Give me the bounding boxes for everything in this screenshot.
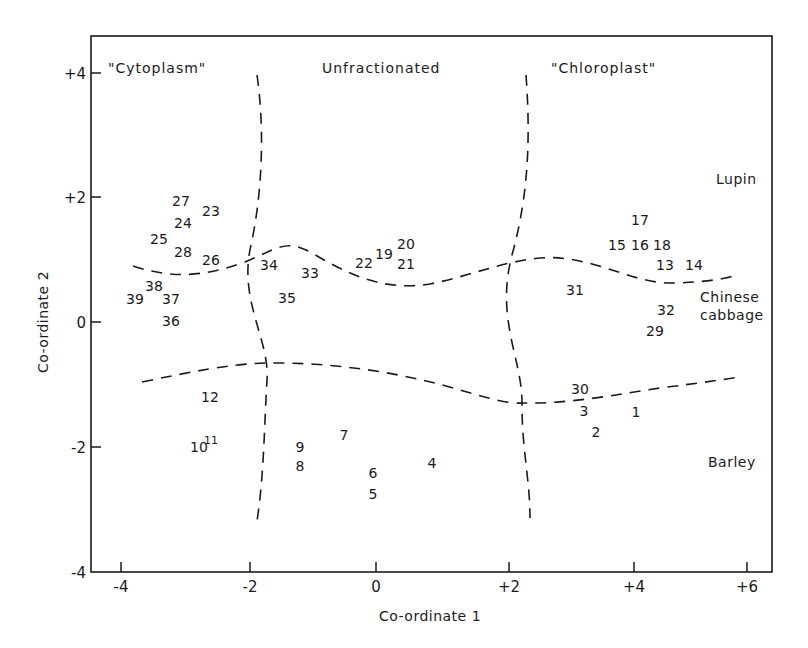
data-point: 9 (296, 439, 305, 455)
data-point: 5 (369, 486, 378, 502)
x-tick-label: -4 (114, 578, 129, 596)
chinese-cabbage-barley-divider (142, 363, 740, 403)
region-label-chloroplast: "Chloroplast" (551, 60, 656, 76)
data-point: 4 (428, 455, 437, 471)
x-tick-label: -2 (243, 578, 258, 596)
x-tick-label: +4 (623, 578, 645, 596)
data-point: 35 (278, 290, 296, 306)
species-label-lupin: Lupin (716, 171, 757, 187)
data-point: 13 (656, 257, 674, 273)
data-point: 20 (397, 236, 415, 252)
scatter-chart: +4 +2 0 -2 -4 -4 -2 0 +2 +4 +6 Co-ordina… (0, 0, 808, 648)
data-point: 39 (126, 291, 144, 307)
data-point: 34 (260, 257, 278, 273)
data-point: 1 (632, 404, 641, 420)
boundaries (133, 75, 740, 527)
data-point: 2 (592, 424, 601, 440)
species-label-barley: Barley (708, 454, 756, 470)
data-point: 23 (202, 203, 220, 219)
y-tick-label: -2 (71, 439, 86, 457)
species-label-chinese-cabbage: cabbage (700, 307, 764, 323)
x-axis: -4 -2 0 +2 +4 +6 (114, 562, 759, 596)
x-tick-label: +6 (736, 578, 758, 596)
data-point: 19 (375, 246, 393, 262)
data-point: 16 (631, 237, 649, 253)
data-point: 22 (355, 255, 373, 271)
y-axis-title: Co-ordinate 2 (35, 271, 51, 373)
data-point: 8 (296, 458, 305, 474)
data-point: 36 (162, 313, 180, 329)
data-point: 7 (340, 427, 349, 443)
data-point: 18 (653, 237, 671, 253)
data-point: 29 (646, 323, 664, 339)
data-point: 15 (608, 237, 626, 253)
data-point: 14 (685, 257, 703, 273)
cytoplasm-unfractionated-divider (248, 75, 267, 527)
data-point: 3 (580, 403, 589, 419)
y-axis: +4 +2 0 -2 -4 (64, 65, 101, 582)
data-point: 31 (566, 282, 584, 298)
y-tick-label: 0 (76, 314, 86, 332)
species-label-chinese-cabbage: Chinese (700, 289, 759, 305)
data-point: 26 (202, 252, 220, 268)
data-point: 33 (301, 265, 319, 281)
unfractionated-chloroplast-divider (507, 75, 530, 518)
data-point: 28 (174, 244, 192, 260)
data-point: 38 (145, 278, 163, 294)
x-tick-label: +2 (498, 578, 520, 596)
data-points: 1 2 3 4 5 6 7 8 9 10 11 12 13 14 15 16 1… (126, 193, 703, 502)
y-tick-label: +2 (64, 189, 86, 207)
data-point: 37 (162, 291, 180, 307)
data-point: 32 (657, 302, 675, 318)
data-point: 25 (150, 231, 168, 247)
data-point: 11 (204, 434, 218, 447)
region-label-unfractionated: Unfractionated (322, 60, 440, 76)
x-tick-label: 0 (371, 578, 381, 596)
y-tick-label: +4 (64, 65, 86, 83)
data-point: 17 (631, 212, 649, 228)
data-point: 6 (369, 465, 378, 481)
data-point: 12 (201, 389, 219, 405)
data-point: 30 (571, 381, 589, 397)
region-label-cytoplasm: "Cytoplasm" (108, 60, 206, 76)
x-axis-title: Co-ordinate 1 (379, 608, 481, 624)
y-tick-label: -4 (71, 564, 86, 582)
data-point: 21 (397, 256, 415, 272)
data-point: 24 (174, 215, 192, 231)
data-point: 27 (172, 193, 190, 209)
